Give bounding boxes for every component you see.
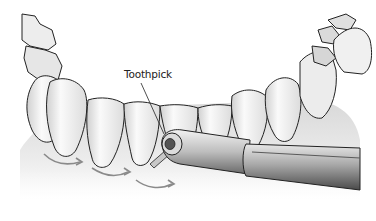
toothpick-label: Toothpick (124, 68, 172, 80)
tooth-left-molar-1 (22, 14, 56, 50)
illustration-svg (0, 0, 376, 221)
tooth-right-back (333, 28, 371, 74)
teeth-illustration: Toothpick (0, 0, 376, 221)
